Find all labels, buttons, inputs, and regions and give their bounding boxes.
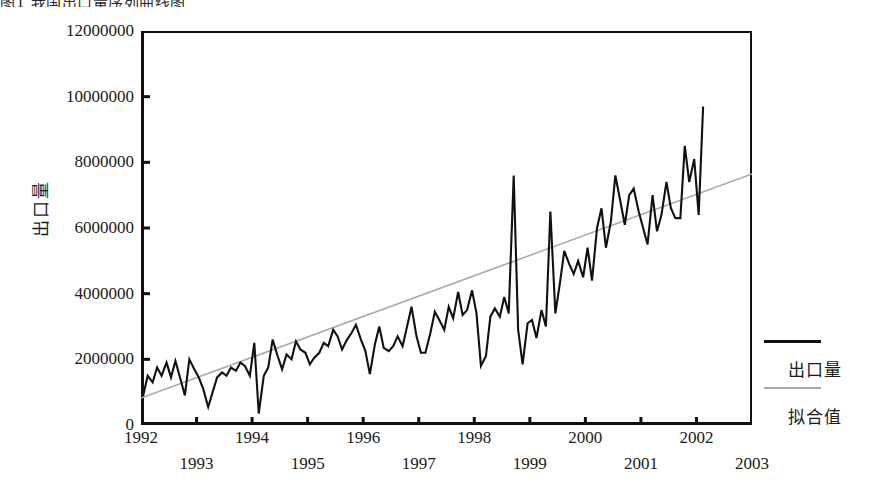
x-axis-tick-label: 2000 [558, 429, 612, 447]
x-axis-tick-label: 1993 [170, 455, 224, 473]
y-axis-title: 出口量 [27, 164, 52, 254]
legend-swatch-export-volume [764, 340, 821, 343]
x-axis-tick-label: 1995 [281, 455, 335, 473]
legend-label-export-volume: 出口量 [788, 356, 842, 381]
x-axis-tick-label: 1999 [503, 455, 557, 473]
y-axis-tick-label: 4000000 [18, 285, 134, 302]
plot-canvas [141, 31, 752, 425]
series-line-fitted-value [141, 174, 752, 398]
x-axis-tick-label: 2003 [725, 455, 779, 473]
x-axis-tick-label: 2002 [669, 429, 723, 447]
export-volume-figure: 图1 我国出口量序列曲线图 02000000400000060000008000… [0, 0, 877, 499]
x-axis-tick-label: 1994 [225, 429, 279, 447]
x-axis-tick-label: 1992 [114, 429, 168, 447]
x-axis-tick-label: 1998 [447, 429, 501, 447]
y-axis-tick-label: 12000000 [18, 22, 134, 39]
y-axis-tick-label: 2000000 [18, 350, 134, 367]
series-line-export-volume [143, 107, 703, 414]
chart-legend: 出口量 拟合值 [764, 332, 872, 440]
legend-swatch-fitted-value [764, 387, 821, 389]
y-axis-tick-label: 10000000 [18, 88, 134, 105]
x-axis-tick-label: 2001 [614, 455, 668, 473]
x-axis-tick-label: 1997 [392, 455, 446, 473]
x-axis-tick-label: 1996 [336, 429, 390, 447]
legend-label-fitted-value: 拟合值 [788, 403, 842, 428]
